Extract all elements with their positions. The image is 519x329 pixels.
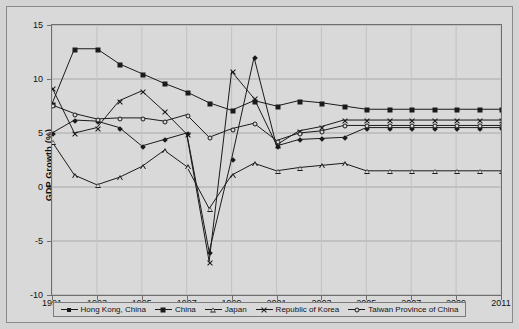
data-point-marker xyxy=(207,207,213,212)
x-tick-mark xyxy=(411,296,412,300)
data-point-marker xyxy=(275,139,280,144)
data-point-marker xyxy=(140,164,146,169)
data-point-marker xyxy=(477,124,482,129)
legend-marker-icon xyxy=(61,305,78,314)
data-point-marker xyxy=(455,108,460,113)
data-point-marker xyxy=(500,124,503,129)
legend-item[interactable]: Hong Kong, China xyxy=(61,305,146,314)
data-point-marker xyxy=(230,109,235,114)
data-point-marker xyxy=(297,166,303,171)
data-point-marker xyxy=(297,132,302,137)
data-point-marker xyxy=(73,112,78,117)
legend-label: Japan xyxy=(225,305,247,314)
data-point-marker xyxy=(365,108,370,113)
x-tick-mark xyxy=(277,296,278,300)
data-point-marker xyxy=(319,163,325,168)
data-point-marker xyxy=(140,116,145,121)
x-tick-mark xyxy=(232,296,233,300)
data-point-marker xyxy=(185,113,190,118)
data-point-marker xyxy=(432,169,438,174)
data-point-marker xyxy=(208,101,213,106)
data-point-marker xyxy=(229,69,236,76)
data-point-marker xyxy=(184,132,191,139)
data-point-marker xyxy=(365,124,370,129)
data-point-marker xyxy=(185,90,190,95)
data-point-marker xyxy=(117,98,124,105)
y-tick-mark xyxy=(47,187,51,188)
y-tick-mark xyxy=(47,25,51,26)
data-point-marker xyxy=(230,127,235,132)
legend-item[interactable]: Japan xyxy=(205,305,247,314)
data-point-marker xyxy=(500,108,503,113)
legend-item[interactable]: Republic of Korea xyxy=(256,305,340,314)
x-tick-mark xyxy=(321,296,322,300)
data-point-marker xyxy=(230,173,236,178)
data-point-marker xyxy=(163,82,168,87)
data-point-marker xyxy=(455,124,460,129)
data-point-marker xyxy=(72,173,78,178)
data-point-marker xyxy=(253,122,258,127)
x-tick-mark xyxy=(501,296,502,300)
data-point-marker xyxy=(410,124,415,129)
y-tick-mark xyxy=(47,295,51,296)
data-point-marker xyxy=(140,72,145,77)
legend-label: Taiwan Province of China xyxy=(368,305,458,314)
x-tick-mark xyxy=(366,296,367,300)
legend-item[interactable]: Taiwan Province of China xyxy=(348,305,458,314)
data-point-marker xyxy=(342,105,347,110)
y-tick-label: 15 xyxy=(7,20,47,30)
x-tick-mark xyxy=(187,296,188,300)
legend-label: Hong Kong, China xyxy=(81,305,146,314)
data-point-marker xyxy=(342,124,347,129)
legend-marker-icon xyxy=(348,305,365,314)
data-point-marker xyxy=(320,101,325,106)
plot-area xyxy=(51,24,502,296)
data-point-marker xyxy=(72,131,79,138)
data-point-marker xyxy=(432,124,437,129)
y-tick-label: 10 xyxy=(7,74,47,84)
data-point-marker xyxy=(320,129,325,134)
legend-marker-icon xyxy=(205,305,222,314)
data-point-marker xyxy=(275,105,280,110)
data-point-marker xyxy=(364,169,370,174)
data-point-marker xyxy=(95,47,100,52)
data-point-marker xyxy=(499,169,502,174)
data-point-marker xyxy=(73,47,78,52)
data-point-marker xyxy=(117,175,123,180)
data-point-marker xyxy=(275,169,281,174)
data-point-marker xyxy=(94,125,101,132)
data-point-marker xyxy=(118,116,123,121)
legend-item[interactable]: China xyxy=(155,305,196,314)
y-tick-mark xyxy=(47,133,51,134)
data-point-marker xyxy=(387,169,393,174)
y-tick-label: 5 xyxy=(7,128,47,138)
data-point-marker xyxy=(51,140,56,145)
chart-figure: GDP Growth (%) 151050-5-10 1991199319951… xyxy=(0,0,519,329)
data-point-marker xyxy=(185,164,191,169)
legend-marker-icon xyxy=(155,305,172,314)
y-tick-label: -5 xyxy=(7,236,47,246)
data-point-marker xyxy=(432,108,437,113)
chart-legend: Hong Kong, ChinaChinaJapanRepublic of Ko… xyxy=(53,302,467,317)
plot-area-wrapper: 151050-5-10 1991199319951997199920012003… xyxy=(51,24,502,296)
data-point-marker xyxy=(51,85,57,92)
x-tick-mark xyxy=(142,296,143,300)
data-point-marker xyxy=(139,88,146,95)
data-point-marker xyxy=(409,169,415,174)
x-tick-mark xyxy=(97,296,98,300)
legend-label: China xyxy=(175,305,196,314)
data-point-marker xyxy=(162,148,168,153)
y-tick-mark xyxy=(47,241,51,242)
data-point-marker xyxy=(387,108,392,113)
data-point-marker xyxy=(477,108,482,113)
data-point-marker xyxy=(163,120,168,125)
data-point-marker xyxy=(410,108,415,113)
data-point-marker xyxy=(387,124,392,129)
data-point-marker xyxy=(252,161,258,166)
y-tick-label: 0 xyxy=(7,182,47,192)
data-point-marker xyxy=(95,117,100,122)
data-point-marker xyxy=(162,109,169,116)
data-point-marker xyxy=(454,169,460,174)
data-point-marker xyxy=(207,259,214,266)
data-point-marker xyxy=(95,183,101,188)
